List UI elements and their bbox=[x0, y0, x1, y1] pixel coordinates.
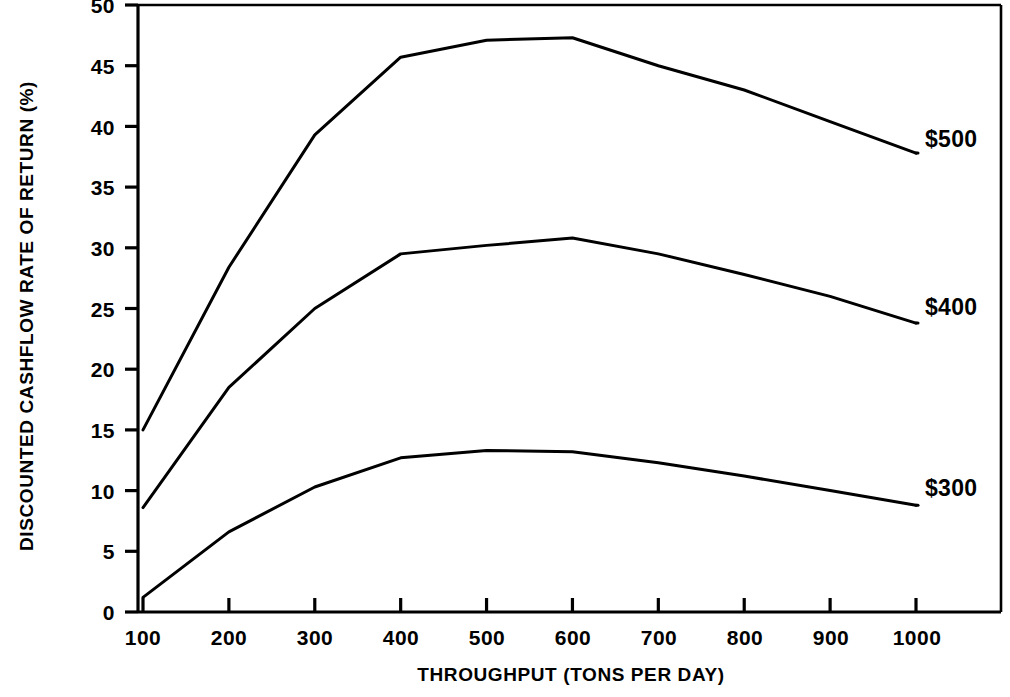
series-line-300 bbox=[143, 451, 916, 598]
series-line-500 bbox=[143, 38, 916, 430]
series-lines bbox=[143, 38, 916, 598]
tick-marks bbox=[125, 5, 916, 612]
chart-figure: DISCOUNTED CASHFLOW RATE OF RETURN (%) T… bbox=[0, 0, 1010, 697]
series-line-400 bbox=[143, 238, 916, 508]
plot-area bbox=[0, 0, 1010, 697]
leader-lines bbox=[916, 153, 918, 505]
